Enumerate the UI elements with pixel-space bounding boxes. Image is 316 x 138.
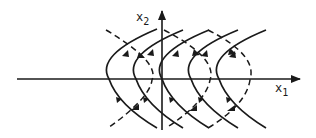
arrow-d3-bottom — [227, 105, 235, 111]
arrow-t2-top — [147, 49, 154, 56]
phase-portrait-svg — [0, 0, 316, 138]
arrow-d2-bottom — [189, 105, 197, 111]
x2-label-subscript: 2 — [143, 16, 149, 27]
x1-label-subscript: 1 — [282, 87, 288, 98]
x1-axis-label: x1 — [275, 82, 288, 98]
arrow-t4-top — [201, 50, 208, 57]
arrow-d1-bottom — [131, 104, 139, 110]
x2-axis-label: x2 — [136, 11, 149, 27]
phase-portrait-diagram: x2 x1 — [0, 0, 316, 138]
arrow-t3-top — [172, 50, 179, 57]
arrow-t1-top — [122, 50, 129, 57]
